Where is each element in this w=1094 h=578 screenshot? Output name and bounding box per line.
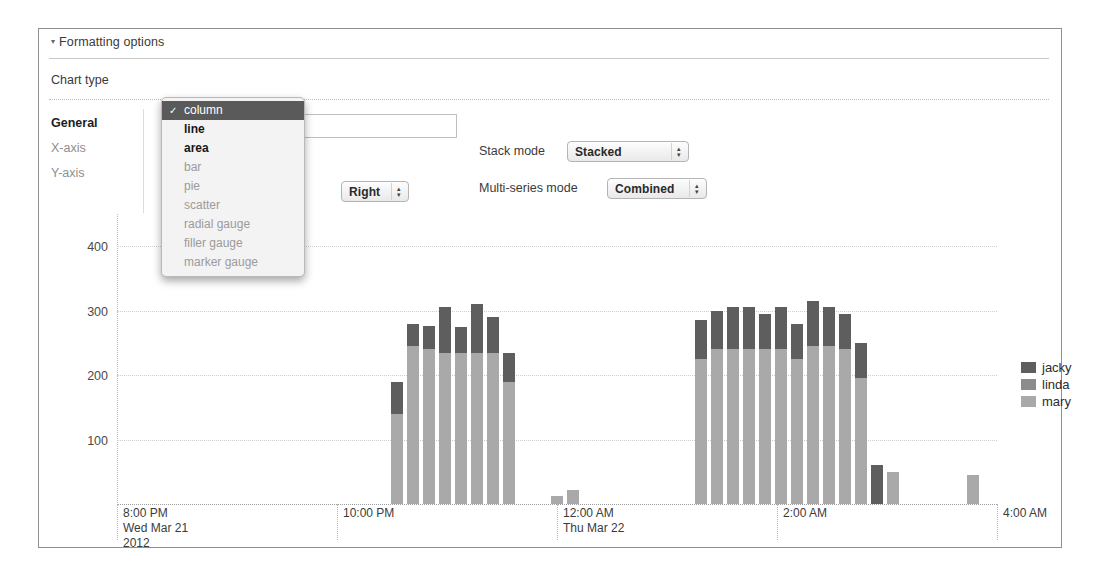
chart-bar[interactable]	[391, 382, 404, 504]
bar-segment-mary	[759, 349, 772, 504]
bar-segment-mary	[807, 346, 820, 504]
bar-segment-mary	[967, 475, 980, 504]
legend-item[interactable]: mary	[1021, 393, 1094, 410]
tab-y-axis[interactable]: Y-axis	[51, 161, 137, 186]
check-icon: ✓	[169, 101, 177, 120]
x-axis-tick-label: 2012	[123, 536, 188, 551]
bar-segment-mary	[503, 382, 516, 504]
x-axis-tick-mark	[997, 504, 998, 540]
bar-segment-jacky	[759, 314, 772, 349]
x-axis-tick-mark	[117, 504, 118, 540]
x-axis-tick: 12:00 AMThu Mar 22	[563, 506, 624, 536]
chart-type-dropdown-menu[interactable]: ✓columnlineareabarpiescatterradial gauge…	[161, 97, 305, 277]
bar-segment-mary	[487, 353, 500, 504]
formatting-options-panel: ▾Formatting options Chart type General X…	[38, 28, 1062, 548]
stepper-icon[interactable]: ▴ ▾	[671, 143, 685, 160]
menu-item-label: filler gauge	[184, 236, 243, 250]
x-axis-tick-label: 2:00 AM	[783, 506, 827, 521]
stepper-down-icon: ▾	[677, 152, 681, 158]
menu-item-label: line	[184, 122, 205, 136]
legend-item[interactable]: jacky	[1021, 359, 1094, 376]
chart-bar[interactable]	[711, 311, 724, 504]
bar-segment-jacky	[839, 314, 852, 349]
legend-swatch-icon	[1021, 379, 1036, 390]
chart-bar[interactable]	[567, 490, 580, 504]
chart-bar[interactable]	[439, 307, 452, 504]
y-axis-tick-label: 100	[87, 434, 108, 448]
chart-bar[interactable]	[407, 324, 420, 504]
x-axis-tick-label: 8:00 PM	[123, 506, 188, 521]
stack-mode-select[interactable]: Stacked ▴ ▾	[567, 141, 689, 162]
menu-item-radial-gauge[interactable]: radial gauge	[162, 215, 304, 234]
tab-general[interactable]: General	[51, 111, 137, 136]
menu-item-area[interactable]: area	[162, 139, 304, 158]
bar-segment-jacky	[871, 465, 884, 504]
chart-bar[interactable]	[775, 307, 788, 504]
menu-item-line[interactable]: line	[162, 120, 304, 139]
chart-bar[interactable]	[487, 317, 500, 504]
bar-segment-mary	[695, 359, 708, 504]
chart-bar[interactable]	[455, 327, 468, 504]
bar-segment-jacky	[391, 382, 404, 414]
stepper-down-icon: ▾	[397, 192, 401, 198]
bar-segment-mary	[455, 353, 468, 504]
legend-item[interactable]: linda	[1021, 376, 1094, 393]
stepper-icon[interactable]: ▴ ▾	[689, 180, 703, 197]
chart-bar[interactable]	[503, 353, 516, 504]
chart-bar[interactable]	[967, 475, 980, 504]
bar-segment-mary	[471, 353, 484, 504]
menu-item-label: marker gauge	[184, 255, 258, 269]
menu-item-filler-gauge[interactable]: filler gauge	[162, 234, 304, 253]
menu-item-pie[interactable]: pie	[162, 177, 304, 196]
menu-item-label: radial gauge	[184, 217, 250, 231]
x-axis-tick: 10:00 PM	[343, 506, 394, 521]
x-axis-tick: 8:00 PMWed Mar 212012	[123, 506, 188, 551]
chart-bar[interactable]	[471, 304, 484, 504]
chart-bar[interactable]	[695, 320, 708, 504]
menu-item-bar[interactable]: bar	[162, 158, 304, 177]
multi-series-mode-value: Combined	[615, 182, 683, 196]
tab-column-divider	[143, 109, 144, 213]
bar-segment-jacky	[823, 307, 836, 346]
menu-item-column[interactable]: ✓column	[162, 101, 304, 120]
bar-segment-jacky	[471, 304, 484, 352]
bar-segment-mary	[391, 414, 404, 504]
bar-segment-jacky	[423, 326, 436, 349]
menu-item-scatter[interactable]: scatter	[162, 196, 304, 215]
bar-segment-mary	[407, 346, 420, 504]
bar-segment-mary	[775, 349, 788, 504]
chart-bar[interactable]	[759, 314, 772, 504]
header-divider	[49, 58, 1049, 59]
chart-bar[interactable]	[823, 307, 836, 504]
bar-segment-mary	[823, 346, 836, 504]
formatting-options-title: Formatting options	[59, 35, 164, 49]
chart-bar[interactable]	[855, 343, 868, 504]
chart-bar[interactable]	[887, 472, 900, 504]
stepper-icon[interactable]: ▴ ▾	[391, 183, 405, 200]
menu-item-label: scatter	[184, 198, 220, 212]
bar-segment-mary	[743, 349, 756, 504]
chart-bar[interactable]	[727, 307, 740, 504]
chart-bar[interactable]	[839, 314, 852, 504]
x-axis-tick: 2:00 AM	[783, 506, 827, 521]
chart-bar[interactable]	[807, 301, 820, 504]
bar-segment-mary	[423, 349, 436, 504]
legend-placement-value: Right	[349, 185, 385, 199]
tab-x-axis[interactable]: X-axis	[51, 136, 137, 161]
chart-bar[interactable]	[743, 307, 756, 504]
chart-bar[interactable]	[551, 496, 564, 504]
collapse-triangle-icon[interactable]: ▾	[51, 37, 55, 46]
bar-segment-jacky	[807, 301, 820, 346]
bar-segment-mary	[551, 496, 564, 504]
menu-item-marker-gauge[interactable]: marker gauge	[162, 253, 304, 272]
y-axis-tick-label: 400	[87, 240, 108, 254]
chart-bar[interactable]	[423, 326, 436, 504]
bar-segment-mary	[711, 349, 724, 504]
stack-mode-label: Stack mode	[479, 144, 545, 158]
chart-bar[interactable]	[791, 324, 804, 504]
multi-series-mode-select[interactable]: Combined ▴ ▾	[607, 178, 707, 199]
chart-bar[interactable]	[871, 465, 884, 504]
legend-placement-select[interactable]: Right ▴ ▾	[341, 181, 409, 202]
formatting-options-header[interactable]: ▾Formatting options	[51, 35, 164, 49]
gridline: 300	[117, 311, 997, 312]
